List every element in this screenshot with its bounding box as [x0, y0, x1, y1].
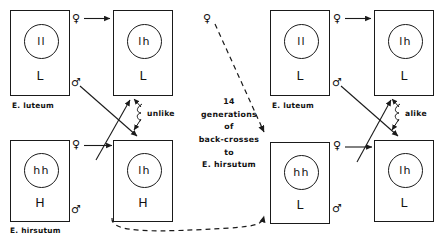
nucleus-6: lh — [388, 24, 423, 59]
female-symbol-mid-top: ♀ — [203, 13, 211, 24]
nucleus-genotype-4: lh — [138, 165, 150, 176]
cross-box-2: lh L — [113, 10, 173, 96]
backcross-note: 14 generations of back-crosses to E. hir… — [186, 96, 272, 172]
cross-box-3: hh H — [10, 140, 70, 222]
male-symbol-right-bottom: ♂ — [332, 203, 342, 214]
unlike-brace — [137, 104, 142, 121]
cytoplasm-label-1: L — [11, 70, 69, 83]
nucleus-5: ll — [284, 24, 319, 59]
cross-box-6: lh L — [374, 10, 434, 96]
nucleus-genotype-7: hh — [293, 167, 309, 178]
species-label-5: E. luteum — [272, 101, 314, 110]
nucleus-genotype-5: ll — [297, 36, 306, 47]
cross-box-7: hh L — [270, 142, 330, 224]
nucleus-8: lh — [388, 153, 423, 188]
unlike-label: unlike — [147, 109, 175, 118]
genetics-cross-diagram: ll L E. luteum lh L hh H E. hirsutum lh … — [0, 0, 439, 236]
cross-box-4: lh H — [113, 140, 173, 222]
nucleus-4: lh — [127, 153, 162, 188]
male-symbol-left-bottom: ♂ — [71, 204, 81, 215]
backcross-note-line-3: of — [186, 121, 272, 134]
nucleus-1: ll — [24, 24, 59, 59]
backcross-note-line-2: generations — [186, 109, 272, 122]
unlike-pointer-down — [134, 119, 141, 130]
cytoplasm-label-4: H — [114, 197, 172, 210]
nucleus-7: hh — [284, 155, 319, 190]
alike-brace — [395, 104, 400, 121]
backcross-note-line-1: 14 — [186, 96, 272, 109]
cytoplasm-label-6: L — [375, 70, 433, 83]
nucleus-genotype-1: ll — [37, 36, 46, 47]
nucleus-2: lh — [127, 24, 162, 59]
cytoplasm-label-3: H — [11, 197, 69, 210]
female-symbol-right-top: ♀ — [333, 13, 341, 24]
alike-pointer-down — [392, 119, 399, 130]
cytoplasm-label-8: L — [375, 197, 433, 210]
cytoplasm-label-7: L — [271, 199, 329, 212]
nucleus-genotype-8: lh — [399, 165, 411, 176]
cross-box-8: lh L — [374, 140, 434, 222]
female-symbol-right-bottom: ♀ — [333, 140, 341, 151]
nucleus-3: hh — [24, 153, 59, 188]
alike-label: alike — [405, 109, 427, 118]
cross-box-5: ll L — [270, 10, 330, 96]
backcross-note-line-6: E. hirsutum — [186, 159, 272, 172]
nucleus-genotype-3: hh — [33, 165, 49, 176]
male-symbol-right-top: ♂ — [332, 77, 342, 88]
nucleus-genotype-2: lh — [138, 36, 150, 47]
backcross-note-line-4: back-crosses — [186, 134, 272, 147]
female-symbol-left-bottom: ♀ — [72, 139, 80, 150]
cross-box-1: ll L — [10, 10, 70, 96]
nucleus-genotype-6: lh — [399, 36, 411, 47]
cytoplasm-label-2: L — [114, 70, 172, 83]
female-symbol-left-top: ♀ — [72, 13, 80, 24]
species-label-1: E. luteum — [12, 101, 54, 110]
male-symbol-left-top: ♂ — [71, 77, 81, 88]
unlike-pointer-up — [134, 99, 141, 107]
backcross-note-line-5: to — [186, 147, 272, 160]
cytoplasm-label-5: L — [271, 70, 329, 83]
species-label-3: E. hirsutum — [10, 226, 61, 235]
alike-pointer-up — [392, 99, 399, 107]
